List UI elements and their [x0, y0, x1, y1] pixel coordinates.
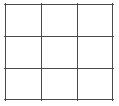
grid-cell-r1c1[interactable] [5, 4, 41, 36]
grid-cell-r3c3[interactable] [77, 68, 113, 100]
grid-cell-r2c2[interactable] [41, 36, 77, 68]
grid-cell-r1c3[interactable] [77, 4, 113, 36]
grid-cell-r3c1[interactable] [5, 68, 41, 100]
grid-cell-r3c2[interactable] [41, 68, 77, 100]
grid-cell-r2c3[interactable] [77, 36, 113, 68]
grid-cells [5, 4, 113, 100]
grid-cell-r2c1[interactable] [5, 36, 41, 68]
grid-figure [0, 0, 119, 106]
figure-canvas [0, 0, 119, 106]
grid-cell-r1c2[interactable] [41, 4, 77, 36]
